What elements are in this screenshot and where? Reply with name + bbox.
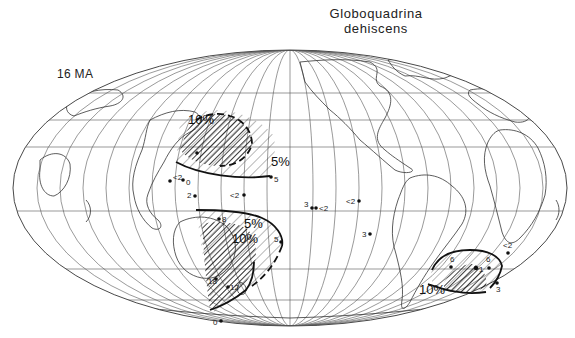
sample-value: 2 xyxy=(187,191,192,200)
sample-value: 3 xyxy=(496,285,501,294)
world-map: 10% 5% 5% 10% 10% <2 0 2 <2 5 3 <2 xyxy=(0,0,575,338)
sample-dot xyxy=(219,319,223,323)
sample-dot xyxy=(310,206,314,210)
sample-value: 0 xyxy=(186,178,191,187)
contour-label-sa-10: 10% xyxy=(419,282,445,297)
sample-value: 6 xyxy=(486,255,491,264)
contour-label-nw-10: 10% xyxy=(188,112,214,127)
sample-value: 1 xyxy=(479,265,484,274)
sample-value: <2 xyxy=(173,173,183,182)
sample-value: 12 xyxy=(230,283,239,292)
sample-value: <2 xyxy=(319,204,329,213)
sample-value: 3 xyxy=(304,200,309,209)
sample-dot xyxy=(474,266,478,270)
sample-dot xyxy=(357,199,361,203)
sw-pacific-zone: 5% 10% xyxy=(196,210,282,312)
sample-dot xyxy=(314,206,318,210)
contour-label-nw-5: 5% xyxy=(271,154,290,169)
africa-coast xyxy=(484,130,546,243)
sample-dot xyxy=(195,151,199,155)
contour-label-sw-10: 10% xyxy=(232,231,258,246)
sample-dot xyxy=(368,232,372,236)
sample-dot xyxy=(487,266,491,270)
sample-value: <2 xyxy=(346,197,356,206)
sample-dot xyxy=(217,217,221,221)
sample-value: 18 xyxy=(208,277,217,286)
sample-value: 3 xyxy=(362,230,367,239)
sample-value: <2 xyxy=(503,241,513,250)
sample-value: <2 xyxy=(230,191,240,200)
sample-dot xyxy=(242,193,246,197)
sample-value: 5 xyxy=(274,175,279,184)
contour-label-sw-5: 5% xyxy=(244,216,263,231)
sample-value: 8 xyxy=(222,215,227,224)
sample-value: 0 xyxy=(213,318,218,327)
sample-dot xyxy=(269,175,273,179)
sample-dot xyxy=(449,265,453,269)
sample-dot xyxy=(193,194,197,198)
sample-dot xyxy=(168,179,172,183)
sample-value: 5 xyxy=(274,235,279,244)
sample-dot xyxy=(181,178,185,182)
sample-value: 6 xyxy=(450,255,455,264)
sample-dot xyxy=(279,240,283,244)
sample-dot xyxy=(506,251,510,255)
